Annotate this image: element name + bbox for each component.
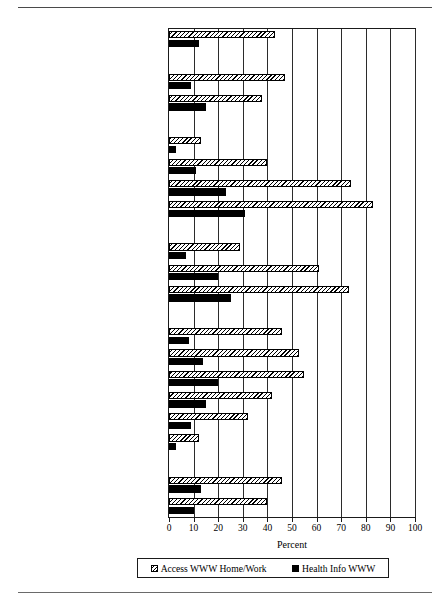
x-axis-tick xyxy=(169,518,170,522)
x-axis-tick xyxy=(267,518,268,522)
chart-row: Children at home xyxy=(169,475,415,496)
bar-access-www xyxy=(169,137,201,144)
bar-access-www xyxy=(169,31,275,38)
bar-health-info-www xyxy=(169,252,186,259)
chart-legend: Access WWW Home/Work Health Info WWW xyxy=(137,558,389,578)
bar-access-www xyxy=(169,498,267,505)
bar-access-www xyxy=(169,74,285,81)
gridline xyxy=(415,29,416,517)
x-axis-tick xyxy=(194,518,195,522)
chart-row: Graduate/Professional degree xyxy=(169,199,415,220)
x-axis-tick xyxy=(366,518,367,522)
bar-health-info-www xyxy=(169,400,206,407)
bar-access-www xyxy=(169,413,248,420)
x-axis-tick-label: 100 xyxy=(395,523,435,534)
chart-row: Age 45-54 xyxy=(169,390,415,411)
bar-health-info-www xyxy=(169,167,196,174)
bar-access-www xyxy=(169,349,299,356)
bar-access-www xyxy=(169,201,373,208)
legend-label-access: Access WWW Home/Work xyxy=(161,563,267,574)
bar-access-www xyxy=(169,286,349,293)
bar-health-info-www xyxy=(169,40,199,47)
x-axis-tick xyxy=(415,518,416,522)
bar-access-www xyxy=(169,328,282,335)
chart-row: No college science xyxy=(169,241,415,262)
bar-health-info-www xyxy=(169,188,226,195)
legend-swatch-health-icon xyxy=(292,565,299,572)
x-axis-tick xyxy=(292,518,293,522)
x-axis-title: Percent xyxy=(168,539,416,550)
x-axis-tick xyxy=(390,518,391,522)
bar-access-www xyxy=(169,95,262,102)
legend-item-access: Access WWW Home/Work xyxy=(151,563,267,574)
chart-row: Age 25-34 xyxy=(169,347,415,368)
bottom-divider-rule xyxy=(18,592,432,593)
plot-area: All adultsGENDERMenWomenEDUCATIONLess th… xyxy=(168,28,416,518)
bar-health-info-www xyxy=(169,210,245,217)
chart-row: Age 18-24 xyxy=(169,326,415,347)
bar-health-info-www xyxy=(169,379,218,386)
bar-health-info-www xyxy=(169,358,203,365)
bar-access-www xyxy=(169,392,272,399)
chart-row: Baccalaureate xyxy=(169,178,415,199)
bar-access-www xyxy=(169,180,351,187)
chart-row: Men xyxy=(169,71,415,92)
chart-row: Age 65 and over xyxy=(169,432,415,453)
chart-row: No children at home xyxy=(169,496,415,517)
bar-access-www xyxy=(169,477,282,484)
chart-row: High school graduate xyxy=(169,156,415,177)
bar-chart: All adultsGENDERMenWomenEDUCATIONLess th… xyxy=(0,0,447,600)
chart-row: 1-2 yrs college science xyxy=(169,262,415,283)
bar-health-info-www xyxy=(169,146,176,153)
chart-row: GENDER xyxy=(169,50,415,71)
bar-health-info-www xyxy=(169,337,189,344)
bar-health-info-www xyxy=(169,422,191,429)
bar-health-info-www xyxy=(169,103,206,110)
bar-access-www xyxy=(169,434,199,441)
bar-health-info-www xyxy=(169,82,191,89)
bar-access-www xyxy=(169,243,240,250)
chart-row: Age 35-44 xyxy=(169,368,415,389)
chart-row: EDUCATION xyxy=(169,114,415,135)
bar-health-info-www xyxy=(169,443,176,450)
chart-row: All adults xyxy=(169,29,415,50)
x-axis-tick xyxy=(218,518,219,522)
chart-row: COLLEGE SCIENCE COURSES xyxy=(169,220,415,241)
bar-health-info-www xyxy=(169,273,218,280)
legend-label-health: Health Info WWW xyxy=(302,563,375,574)
x-axis-tick xyxy=(317,518,318,522)
chart-row: Women xyxy=(169,93,415,114)
x-axis-tick xyxy=(243,518,244,522)
chart-row: 3 or more years college science xyxy=(169,284,415,305)
bar-health-info-www xyxy=(169,507,194,514)
legend-swatch-access-icon xyxy=(151,565,158,572)
chart-row: Age 55-64 xyxy=(169,411,415,432)
bar-health-info-www xyxy=(169,485,201,492)
bar-health-info-www xyxy=(169,294,231,301)
chart-row: AGE xyxy=(169,305,415,326)
bar-access-www xyxy=(169,371,304,378)
bar-access-www xyxy=(169,265,319,272)
chart-row: CHILDREN AT HOME xyxy=(169,453,415,474)
bar-access-www xyxy=(169,159,267,166)
x-axis-tick xyxy=(341,518,342,522)
chart-row: Less than high school xyxy=(169,135,415,156)
legend-item-health: Health Info WWW xyxy=(292,563,375,574)
